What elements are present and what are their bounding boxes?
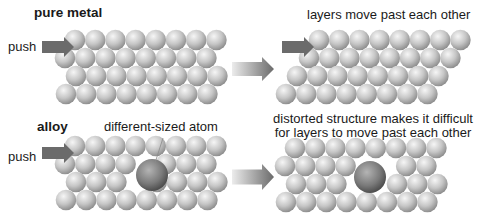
- atom: [176, 154, 197, 175]
- atom: [186, 136, 207, 157]
- alloy-title: alloy: [37, 120, 68, 134]
- atom: [296, 84, 317, 105]
- atom: [166, 30, 187, 51]
- atom: [125, 30, 146, 51]
- atom: [408, 66, 429, 87]
- atom: [75, 48, 96, 69]
- different-sized-atom: [136, 159, 168, 191]
- atom: [390, 30, 411, 51]
- atom: [75, 154, 96, 175]
- atom: [187, 66, 208, 87]
- atom: [207, 66, 228, 87]
- atom: [96, 190, 117, 211]
- atom: [410, 30, 431, 51]
- atom: [106, 172, 127, 193]
- atom: [156, 48, 177, 69]
- atom: [157, 84, 178, 105]
- atom: [315, 156, 336, 177]
- atom: [196, 48, 217, 69]
- push-label-bottom: push: [8, 150, 36, 164]
- atom: [137, 190, 158, 211]
- atom: [197, 84, 218, 105]
- alloy-after-caption-line1: distorted structure makes it difficult: [262, 112, 484, 126]
- atom: [206, 30, 227, 51]
- atom: [427, 174, 448, 195]
- atom: [176, 48, 197, 69]
- atom: [417, 192, 438, 213]
- atom: [86, 172, 107, 193]
- atom: [397, 192, 418, 213]
- atom: [326, 174, 347, 195]
- atom: [66, 172, 87, 193]
- atom: [430, 30, 451, 51]
- atom: [287, 66, 308, 87]
- atom: [147, 66, 168, 87]
- atom: [406, 138, 427, 159]
- atom: [357, 192, 378, 213]
- atom: [335, 156, 356, 177]
- atom: [167, 172, 188, 193]
- atom: [85, 30, 106, 51]
- atom: [345, 138, 366, 159]
- atom: [196, 154, 217, 175]
- atom: [56, 84, 77, 105]
- push-label-top: push: [8, 40, 36, 54]
- atom: [76, 190, 97, 211]
- atom: [380, 48, 401, 69]
- atom: [397, 84, 418, 105]
- atom: [177, 84, 198, 105]
- alloy-after-lattice: [275, 138, 448, 213]
- atom: [115, 154, 136, 175]
- atom: [387, 174, 408, 195]
- atom: [396, 156, 417, 177]
- atom: [157, 190, 178, 211]
- atom: [276, 192, 297, 213]
- atom: [285, 138, 306, 159]
- atom: [116, 84, 137, 105]
- atom: [306, 174, 327, 195]
- atom: [186, 30, 207, 51]
- atom: [407, 174, 428, 195]
- atom: [206, 136, 227, 157]
- atom: [207, 172, 228, 193]
- atom: [417, 84, 438, 105]
- atom: [76, 84, 97, 105]
- atom: [327, 66, 348, 87]
- atom: [295, 156, 316, 177]
- atom: [126, 66, 147, 87]
- atom: [329, 30, 350, 51]
- atom: [377, 84, 398, 105]
- atom: [95, 48, 116, 69]
- atom: [347, 66, 368, 87]
- atom: [275, 156, 296, 177]
- atom: [166, 136, 187, 157]
- atom: [336, 84, 357, 105]
- atom: [106, 66, 127, 87]
- atom: [146, 30, 167, 51]
- atom: [386, 138, 407, 159]
- atom: [316, 84, 337, 105]
- atom: [95, 154, 116, 175]
- atom: [307, 66, 328, 87]
- atom: [167, 66, 188, 87]
- atom: [137, 84, 158, 105]
- atom: [366, 138, 387, 159]
- atom: [85, 136, 106, 157]
- pure-metal-after-caption: layers move past each other: [307, 8, 470, 22]
- pure-metal-before-lattice: [55, 30, 228, 105]
- atom: [369, 30, 390, 51]
- atom: [388, 66, 409, 87]
- atom: [336, 192, 357, 213]
- atom: [286, 174, 307, 195]
- atom: [56, 190, 77, 211]
- atom: [428, 66, 449, 87]
- atom: [177, 190, 198, 211]
- atom: [296, 192, 317, 213]
- alloy-after-caption-line2: for layers to move past each other: [262, 126, 484, 140]
- atom: [105, 30, 126, 51]
- atom: [339, 48, 360, 69]
- atom: [377, 192, 398, 213]
- atom: [305, 138, 326, 159]
- alloy-before-lattice: [55, 136, 228, 211]
- atom: [96, 84, 117, 105]
